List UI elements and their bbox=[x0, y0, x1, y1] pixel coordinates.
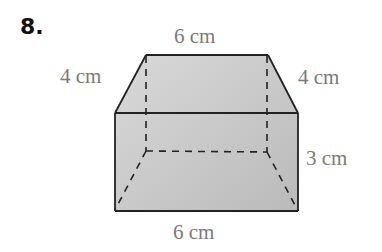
label-height: 3 cm bbox=[306, 148, 347, 169]
label-top-edge: 6 cm bbox=[174, 26, 215, 47]
prism-fill bbox=[115, 55, 298, 211]
label-left-slant: 4 cm bbox=[60, 66, 101, 87]
problem-number: 8. bbox=[20, 16, 44, 38]
label-bottom-edge: 6 cm bbox=[173, 222, 214, 243]
label-right-slant: 4 cm bbox=[298, 67, 339, 88]
